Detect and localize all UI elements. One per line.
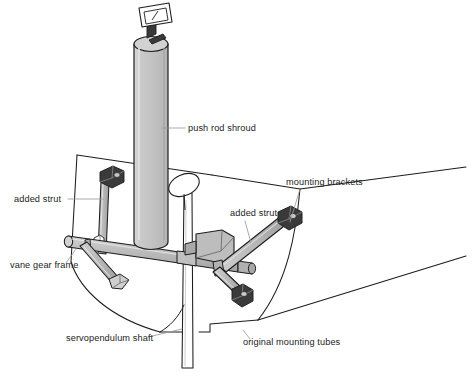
cross-tube-right-cap <box>248 263 255 274</box>
hull-shaft-fairing <box>160 305 184 332</box>
diagram-root: push rod shroud mounting brackets added … <box>0 0 474 372</box>
hull-transom-outline <box>71 155 466 332</box>
hull-bottom-step <box>199 320 258 332</box>
cross-tube-left-cap <box>64 236 72 247</box>
leader-added-strut-right <box>245 221 251 243</box>
label-servopendulum-shaft: servopendulum shaft <box>66 333 154 343</box>
technical-diagram-canvas: push rod shroud mounting brackets added … <box>0 0 474 372</box>
label-added-strut-left: added strut <box>14 194 61 204</box>
mounting-bracket-lower-right <box>232 284 253 307</box>
push-rod-shroud <box>134 37 168 250</box>
label-original-mounting-tubes: original mounting tubes <box>243 337 341 347</box>
label-added-strut-right: added strut <box>230 208 277 218</box>
transom-bottom-left-curve <box>71 262 160 332</box>
hull-lower-right-edge <box>258 256 466 320</box>
label-vane-gear-frame: vane gear frame <box>10 260 78 270</box>
label-push-rod-shroud: push rod shroud <box>188 123 256 133</box>
center-box-stub <box>185 241 196 255</box>
label-mounting-brackets: mounting brackets <box>286 177 363 187</box>
